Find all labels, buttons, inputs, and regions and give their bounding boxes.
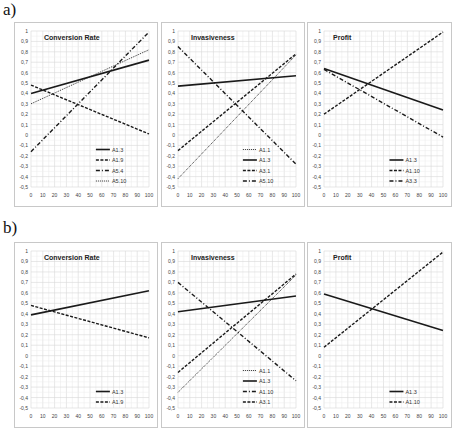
x-tick-label: 40	[369, 192, 375, 198]
chart-title: Profit	[333, 254, 351, 261]
x-tick-label: 60	[99, 413, 105, 419]
y-tick-label: 0,5	[168, 80, 175, 86]
y-tick-label: 1	[318, 248, 321, 254]
y-tick-label: 0,1	[168, 342, 175, 348]
row-label-a: a)	[3, 0, 16, 20]
y-tick-label: -0,4	[166, 395, 175, 401]
y-tick-label: -0,5	[166, 405, 175, 411]
y-tick-label: 0,5	[168, 300, 175, 306]
y-tick-label: 0,6	[314, 70, 321, 76]
x-tick-label: 40	[75, 192, 81, 198]
legend-label: A1.3	[112, 147, 123, 153]
y-tick-label: 0,7	[314, 59, 321, 65]
x-tick-label: 100	[439, 192, 448, 198]
y-tick-label: 1	[25, 248, 28, 254]
y-tick-label: 0,4	[314, 311, 321, 317]
y-tick-label: -0,3	[312, 384, 321, 390]
x-tick-label: 10	[40, 192, 46, 198]
chart-b-profit: 10,90,80,70,60,50,40,30,20,10-0,1-0,2-0,…	[307, 242, 452, 428]
x-tick-label: 20	[345, 192, 351, 198]
x-tick-label: 70	[405, 413, 411, 419]
x-tick-label: 10	[333, 413, 339, 419]
y-tick-label: 0,8	[314, 49, 321, 55]
y-tick-label: -0,1	[166, 363, 175, 369]
y-tick-label: -0,5	[166, 184, 175, 190]
legend-label: A1.9	[112, 399, 123, 405]
y-tick-label: 0,6	[168, 290, 175, 296]
x-tick-label: 0	[177, 413, 180, 419]
x-tick-label: 10	[333, 192, 339, 198]
y-tick-label: 0,4	[314, 90, 321, 96]
y-tick-label: 0,4	[168, 311, 175, 317]
y-tick-label: 0,1	[168, 122, 175, 128]
x-tick-label: 100	[292, 192, 301, 198]
y-tick-label: -0,1	[312, 142, 321, 148]
y-tick-label: 0,3	[314, 321, 321, 327]
x-tick-label: 30	[211, 192, 217, 198]
y-tick-label: -0,3	[166, 384, 175, 390]
y-tick-label: 0	[25, 353, 28, 359]
chart-a-conversion-rate: 10,90,80,70,60,50,40,30,20,10-0,1-0,2-0,…	[14, 22, 158, 207]
y-tick-label: -0,1	[312, 363, 321, 369]
x-tick-label: 80	[416, 192, 422, 198]
x-tick-label: 50	[234, 413, 240, 419]
y-tick-label: -0,2	[166, 374, 175, 380]
y-tick-label: -0,4	[312, 395, 321, 401]
row-label-b: b)	[3, 218, 17, 238]
x-tick-label: 50	[87, 413, 93, 419]
y-tick-label: -0,3	[19, 384, 28, 390]
x-tick-label: 20	[52, 413, 58, 419]
y-tick-label: 0,7	[168, 59, 175, 65]
y-tick-label: 0,3	[21, 101, 28, 107]
y-tick-label: 0,6	[314, 290, 321, 296]
y-tick-label: 0,2	[168, 332, 175, 338]
y-tick-label: 0,4	[168, 90, 175, 96]
legend-label: A1.3	[405, 389, 416, 395]
y-tick-label: 0,8	[21, 49, 28, 55]
y-tick-label: 0,3	[314, 101, 321, 107]
x-tick-label: 30	[211, 413, 217, 419]
x-tick-label: 0	[323, 413, 326, 419]
y-tick-label: 0,9	[168, 258, 175, 264]
y-tick-label: 0,2	[168, 111, 175, 117]
x-tick-label: 40	[222, 192, 228, 198]
y-tick-label: 0	[318, 353, 321, 359]
y-tick-label: 0,6	[21, 290, 28, 296]
x-tick-label: 70	[258, 413, 264, 419]
y-tick-label: -0,3	[166, 163, 175, 169]
x-tick-label: 90	[428, 413, 434, 419]
y-tick-label: 1	[172, 248, 175, 254]
y-tick-label: -0,1	[19, 363, 28, 369]
y-tick-label: -0,3	[19, 163, 28, 169]
y-tick-label: 0	[172, 353, 175, 359]
y-tick-label: 0,2	[21, 332, 28, 338]
y-tick-label: -0,5	[19, 184, 28, 190]
y-tick-label: 1	[172, 28, 175, 34]
y-tick-label: -0,2	[312, 153, 321, 159]
chart-title: Conversion Rate	[44, 254, 100, 261]
y-tick-label: 0,8	[21, 269, 28, 275]
legend-label: A1.1	[259, 147, 270, 153]
y-tick-label: 0	[318, 132, 321, 138]
x-tick-label: 90	[134, 192, 140, 198]
x-tick-label: 60	[393, 413, 399, 419]
x-tick-label: 20	[199, 192, 205, 198]
x-tick-label: 100	[145, 413, 154, 419]
y-tick-label: -0,5	[19, 405, 28, 411]
x-tick-label: 100	[439, 413, 448, 419]
y-tick-label: 0,7	[21, 279, 28, 285]
x-tick-label: 0	[177, 192, 180, 198]
y-tick-label: -0,5	[312, 184, 321, 190]
x-tick-label: 90	[281, 192, 287, 198]
chart-plot: 10,90,80,70,60,50,40,30,20,10-0,1-0,2-0,…	[308, 23, 451, 206]
y-tick-label: 0	[172, 132, 175, 138]
x-tick-label: 100	[145, 192, 154, 198]
legend-label: A5.4	[112, 168, 123, 174]
y-tick-label: -0,1	[19, 142, 28, 148]
y-tick-label: 0,8	[168, 269, 175, 275]
chart-a-invasiveness: 10,90,80,70,60,50,40,30,20,10-0,1-0,2-0,…	[161, 22, 305, 207]
y-tick-label: 0,5	[314, 80, 321, 86]
y-tick-label: 0,5	[21, 80, 28, 86]
y-tick-label: 0,8	[314, 269, 321, 275]
y-tick-label: -0,4	[312, 174, 321, 180]
